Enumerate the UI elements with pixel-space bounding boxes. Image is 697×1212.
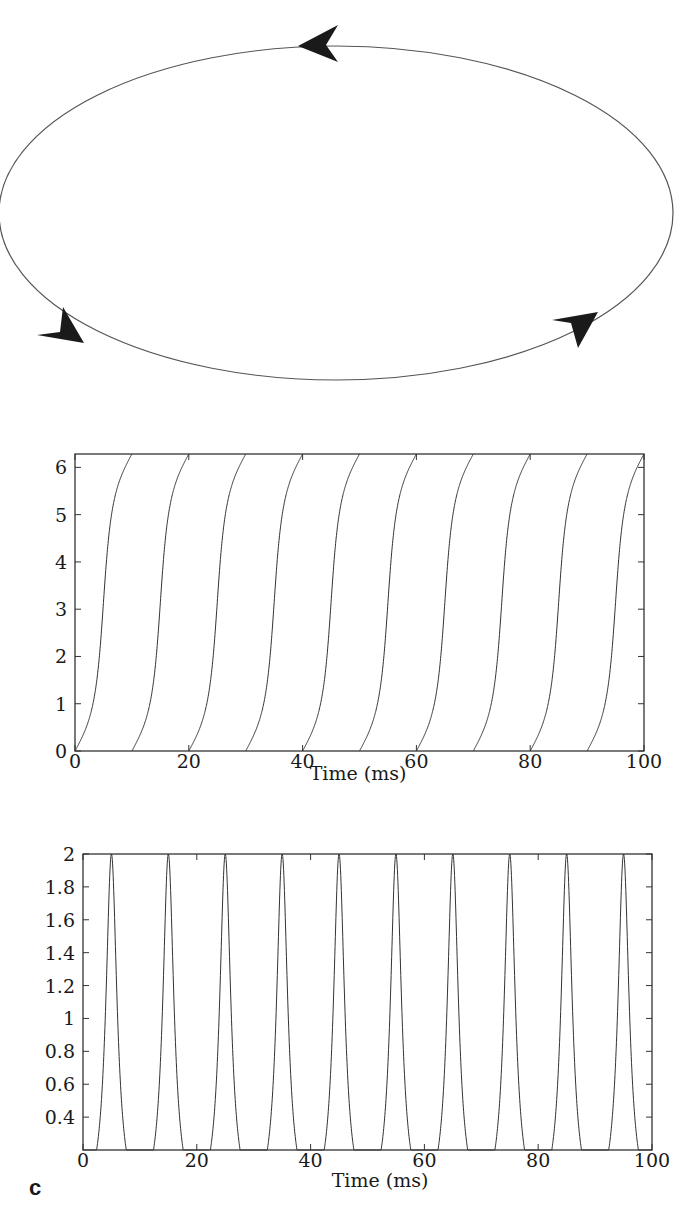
y-tick-label: 0.4: [45, 1106, 75, 1128]
output-chart-frame: [83, 854, 652, 1150]
y-tick-label: 2: [55, 645, 67, 667]
limit-cycle-orbit: [0, 46, 673, 380]
phase-chart-x-ticks: 020406080100: [69, 454, 662, 772]
y-tick-label: 0.8: [45, 1040, 75, 1062]
x-tick-label: 100: [626, 750, 662, 772]
y-tick-label: 5: [55, 504, 67, 526]
x-tick-label: 80: [526, 1149, 550, 1171]
y-tick-label: 1.4: [45, 942, 75, 964]
y-tick-label: 1.2: [45, 975, 75, 997]
output-chart: 0.40.60.811.21.41.61.82 020406080100 Tim…: [29, 843, 670, 1200]
output-series-line: [83, 854, 652, 1150]
phase-chart-y-ticks: 0123456: [55, 456, 644, 762]
y-tick-label: 3: [55, 598, 67, 620]
figure-canvas: 0123456 020406080100 Time (ms) 0.40.60.8…: [0, 0, 697, 1212]
arrowhead-bottom-right-pointing-up-right-icon: [552, 312, 598, 348]
x-tick-label: 80: [518, 750, 542, 772]
arrowhead-bottom-left-pointing-down-right-icon: [37, 307, 84, 343]
x-tick-label: 0: [69, 750, 81, 772]
x-tick-label: 20: [185, 1149, 209, 1171]
x-tick-label: 20: [177, 750, 201, 772]
phase-series-line: [75, 454, 644, 751]
phase-chart: 0123456 020406080100 Time (ms): [55, 454, 662, 784]
panel-label-c: c: [29, 1175, 41, 1200]
y-tick-label: 6: [55, 456, 67, 478]
x-tick-label: 60: [404, 750, 428, 772]
x-tick-label: 40: [299, 1149, 323, 1171]
phase-chart-x-axis-title: Time (ms): [310, 762, 407, 784]
limit-cycle-diagram: [0, 25, 673, 380]
arrowhead-top-left-pointing-icon: [298, 25, 338, 62]
y-tick-label: 0.6: [45, 1073, 75, 1095]
x-tick-label: 100: [634, 1149, 670, 1171]
x-tick-label: 0: [77, 1149, 89, 1171]
y-tick-label: 1: [63, 1007, 75, 1029]
y-tick-label: 2: [63, 843, 75, 865]
y-tick-label: 1.8: [45, 876, 75, 898]
y-tick-label: 4: [55, 551, 67, 573]
y-tick-label: 0: [55, 740, 67, 762]
y-tick-label: 1: [55, 693, 67, 715]
output-chart-x-axis-title: Time (ms): [332, 1169, 429, 1191]
x-tick-label: 60: [412, 1149, 436, 1171]
y-tick-label: 1.6: [45, 909, 75, 931]
